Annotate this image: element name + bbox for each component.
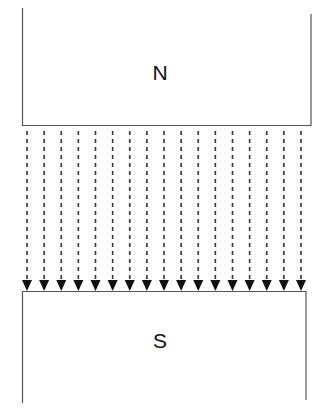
field-line <box>296 131 306 291</box>
field-line <box>125 131 135 291</box>
arrowhead-down-icon <box>262 280 272 291</box>
magnet-field-diagram: N S <box>0 0 320 418</box>
field-line <box>22 131 32 291</box>
arrowhead-down-icon <box>125 280 135 291</box>
arrowhead-down-icon <box>22 280 32 291</box>
south-pole-label: S <box>153 329 167 352</box>
field-line <box>56 131 66 291</box>
arrowhead-down-icon <box>39 280 49 291</box>
field-line <box>262 131 272 291</box>
field-lines <box>22 131 306 291</box>
arrowhead-down-icon <box>142 280 152 291</box>
field-line <box>142 131 152 291</box>
field-line <box>159 131 169 291</box>
field-line <box>176 131 186 291</box>
field-line <box>279 131 289 291</box>
arrowhead-down-icon <box>245 280 255 291</box>
arrowhead-down-icon <box>176 280 186 291</box>
arrowhead-down-icon <box>210 280 220 291</box>
arrowhead-down-icon <box>193 280 203 291</box>
field-line <box>193 131 203 291</box>
arrowhead-down-icon <box>73 280 83 291</box>
field-line <box>108 131 118 291</box>
field-line <box>245 131 255 291</box>
field-line <box>210 131 220 291</box>
arrowhead-down-icon <box>159 280 169 291</box>
arrowhead-down-icon <box>108 280 118 291</box>
field-line <box>228 131 238 291</box>
arrowhead-down-icon <box>296 280 306 291</box>
arrowhead-down-icon <box>279 280 289 291</box>
north-pole-label: N <box>152 61 167 84</box>
arrowhead-down-icon <box>56 280 66 291</box>
arrowhead-down-icon <box>91 280 101 291</box>
north-pole: N <box>23 8 312 126</box>
arrowhead-down-icon <box>228 280 238 291</box>
field-line <box>91 131 101 291</box>
field-line <box>73 131 83 291</box>
south-pole: S <box>23 292 307 404</box>
field-line <box>39 131 49 291</box>
